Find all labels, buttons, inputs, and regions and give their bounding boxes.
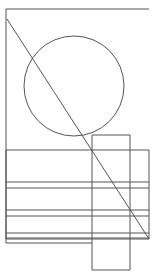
drawing-canvas: Abstract line drawing Monochrome geometr… [0, 0, 159, 280]
figure-svg: Abstract line drawing Monochrome geometr… [0, 0, 159, 280]
